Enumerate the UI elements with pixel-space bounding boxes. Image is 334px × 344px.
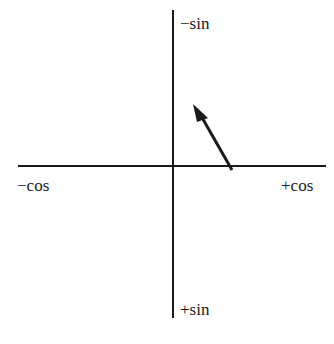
- negative-cos-label: −cos: [17, 177, 49, 194]
- direction-arrow: [193, 104, 232, 170]
- arrow-head-icon: [193, 104, 208, 122]
- negative-sin-label: −sin: [180, 15, 209, 32]
- positive-sin-label: +sin: [180, 301, 209, 318]
- diagram-canvas: [0, 0, 334, 344]
- positive-cos-label: +cos: [281, 177, 313, 194]
